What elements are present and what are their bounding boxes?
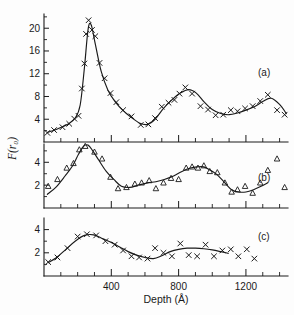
figure-container: F(r₀) 48121620 (a) 24 — [0, 0, 294, 315]
y-tick-label: 4 — [34, 114, 40, 125]
data-point-cross — [65, 246, 70, 251]
data-point-cross — [121, 108, 126, 113]
data-point-cross — [228, 247, 233, 252]
panel-b-y-ticks — [44, 151, 49, 197]
y-tick-label: 2 — [34, 180, 40, 191]
data-point-triangle — [215, 170, 221, 175]
x-tick-label: 400 — [103, 281, 120, 292]
panel-c: 24 4008001200 (c) — [34, 218, 288, 292]
data-point-cross — [198, 104, 203, 109]
x-tick-label: 1200 — [235, 281, 258, 292]
panel-c-y-ticklabels: 24 — [34, 224, 40, 258]
data-point-cross — [236, 254, 241, 259]
data-point-triangle — [115, 186, 121, 191]
data-point-triangle — [242, 183, 248, 188]
panel-a-data-markers — [45, 18, 287, 136]
panel-a-fitted-curve — [47, 23, 286, 132]
x-tick-label: 800 — [170, 281, 187, 292]
y-tick-label: 20 — [29, 23, 41, 34]
data-point-cross — [190, 91, 195, 96]
data-point-cross — [169, 254, 174, 259]
data-point-cross — [129, 254, 134, 259]
data-point-cross — [203, 242, 208, 247]
data-point-cross — [206, 107, 211, 112]
panel-b-x-ticks — [61, 201, 280, 208]
panel-a-y-ticklabels: 48121620 — [29, 23, 41, 125]
x-axis-label: Depth (Å) — [144, 293, 189, 305]
data-point-cross — [211, 254, 216, 259]
panel-label-b: (b) — [258, 172, 270, 183]
y-axis-label: F(r₀) — [6, 137, 19, 161]
data-point-cross — [275, 108, 280, 113]
data-point-triangle — [176, 176, 182, 181]
panel-b: 24 (b) — [34, 143, 288, 208]
data-point-cross — [186, 253, 191, 258]
data-point-cross — [166, 100, 171, 105]
scientific-figure: F(r₀) 48121620 (a) 24 — [0, 0, 294, 315]
panel-label-c: (c) — [258, 231, 270, 242]
data-point-triangle — [189, 164, 195, 169]
panel-a: 48121620 (a) — [29, 14, 288, 142]
data-point-cross — [177, 91, 182, 96]
data-point-cross — [282, 112, 287, 117]
data-point-cross — [178, 241, 183, 246]
data-point-cross — [159, 104, 164, 109]
y-tick-label: 2 — [34, 247, 40, 258]
data-point-cross — [195, 254, 200, 259]
panel-c-data-markers — [46, 232, 257, 265]
y-tick-label: 4 — [34, 157, 40, 168]
data-point-cross — [252, 256, 257, 261]
data-point-triangle — [45, 183, 51, 188]
panel-a-y-ticks — [44, 17, 49, 131]
panel-c-x-ticklabels: 4008001200 — [103, 281, 258, 292]
data-point-triangle — [146, 178, 152, 183]
data-point-triangle — [132, 181, 138, 186]
y-tick-label: 4 — [34, 224, 40, 235]
data-point-triangle — [229, 189, 235, 194]
panel-b-data-markers — [45, 143, 287, 195]
data-point-cross — [244, 247, 249, 252]
data-point-cross — [213, 113, 218, 118]
panel-b-axes — [44, 144, 288, 208]
data-point-triangle — [99, 156, 105, 161]
data-point-cross — [183, 85, 188, 90]
y-tick-label: 12 — [29, 68, 41, 79]
panel-a-x-ticks — [61, 135, 280, 142]
panel-c-y-ticks — [44, 230, 49, 265]
y-tick-label: 8 — [34, 91, 40, 102]
data-point-cross — [75, 234, 80, 239]
data-point-cross — [153, 246, 158, 251]
data-point-cross — [45, 130, 50, 135]
data-point-triangle — [282, 184, 288, 189]
panel-b-y-ticklabels: 24 — [34, 157, 40, 191]
data-point-triangle — [274, 156, 280, 161]
data-point-triangle — [153, 186, 159, 191]
data-point-triangle — [64, 165, 70, 170]
data-point-cross — [228, 108, 233, 113]
data-point-triangle — [55, 176, 61, 181]
data-point-cross — [265, 92, 270, 97]
data-point-triangle — [195, 165, 201, 170]
data-point-cross — [86, 18, 91, 23]
panel-a-axes — [44, 14, 288, 142]
y-axis-label-group: F(r₀) — [6, 137, 19, 161]
panel-label-a: (a) — [258, 67, 270, 78]
y-tick-label: 16 — [29, 45, 41, 56]
panel-c-axes — [44, 218, 288, 276]
data-point-triangle — [235, 187, 241, 192]
panel-c-x-ticks — [61, 269, 280, 276]
